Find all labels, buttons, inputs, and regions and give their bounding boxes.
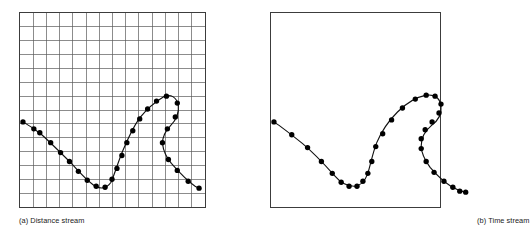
plot-svg-distance-stream: [20, 13, 205, 207]
caption-distance-stream: (a) Distance stream: [19, 216, 84, 226]
plot-area-distance-stream: [19, 12, 206, 208]
plot-area-time-stream: [270, 12, 441, 208]
caption-time-stream: (b) Time stream: [477, 216, 530, 226]
panel-time-stream: (b) Time stream: [229, 0, 458, 246]
sample-markers-distance-stream: [20, 93, 201, 190]
panel-distance-stream: (a) Distance stream: [0, 0, 229, 246]
sample-markers-time-stream: [271, 92, 468, 194]
plot-svg-time-stream: [271, 13, 440, 207]
trajectory-curve-time-stream: [274, 95, 465, 192]
